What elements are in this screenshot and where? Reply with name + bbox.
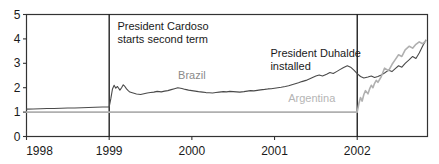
series-label-argentina: Argentina — [288, 92, 336, 104]
y-tick-label: 5 — [14, 8, 21, 22]
plot-frame — [27, 15, 428, 137]
y-tick-label: 4 — [14, 32, 21, 46]
series-line-brazil — [27, 40, 426, 109]
annotation-cardoso-line1: President Cardoso — [117, 20, 208, 32]
x-tick-label: 1999 — [96, 144, 123, 158]
x-tick-label: 2000 — [179, 144, 206, 158]
x-tick-label: 1998 — [26, 144, 53, 158]
exchange-rate-chart: 01234519981999200020012002BrazilArgentin… — [0, 0, 439, 164]
chart-canvas: 01234519981999200020012002BrazilArgentin… — [0, 0, 439, 164]
y-tick-label: 3 — [14, 56, 21, 70]
annotation-duhalde-line2: installed — [270, 60, 310, 72]
y-tick-label: 2 — [14, 81, 21, 95]
x-tick-label: 2001 — [261, 144, 288, 158]
y-tick-label: 1 — [14, 105, 21, 119]
series-label-brazil: Brazil — [178, 69, 206, 81]
series-line-argentina — [27, 41, 426, 112]
annotation-duhalde-line1: President Duhalde — [270, 47, 361, 59]
y-tick-label: 0 — [14, 130, 21, 144]
annotation-cardoso-line2: starts second term — [117, 33, 207, 45]
x-tick-label: 2002 — [344, 144, 371, 158]
